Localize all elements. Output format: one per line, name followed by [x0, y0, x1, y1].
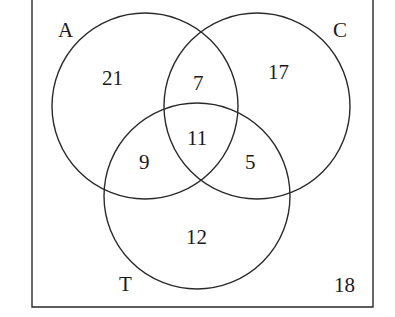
- region-a-and-t: 9: [139, 150, 150, 174]
- region-a-and-c: 7: [193, 71, 204, 95]
- region-a-c-t: 11: [187, 126, 207, 150]
- universal-set-box: [32, 0, 373, 307]
- region-a-only: 21: [102, 66, 123, 90]
- region-outside: 18: [334, 273, 355, 297]
- region-c-only: 17: [268, 60, 289, 84]
- region-t-only: 12: [186, 225, 207, 249]
- circle-c: [164, 13, 350, 199]
- venn-diagram: A C T 21 7 17 11 9 5 12 18: [0, 0, 395, 317]
- region-c-and-t: 5: [245, 150, 256, 174]
- set-label-c: C: [333, 18, 347, 42]
- set-label-t: T: [119, 272, 132, 296]
- set-label-a: A: [58, 18, 74, 42]
